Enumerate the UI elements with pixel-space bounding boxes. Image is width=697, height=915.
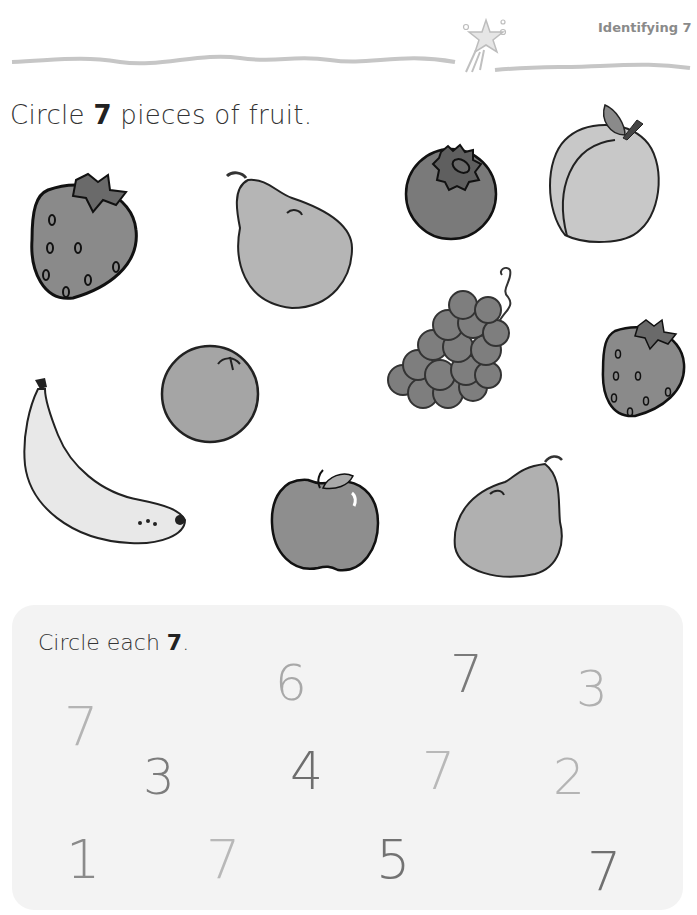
- decorative-wavy-line: [0, 40, 697, 80]
- fruit-instruction: Circle 7 pieces of fruit.: [10, 100, 312, 130]
- numeral-7[interactable]: 7: [587, 845, 621, 899]
- grapes-icon[interactable]: [378, 265, 523, 410]
- apple-icon[interactable]: [268, 468, 383, 576]
- strawberry-icon[interactable]: [28, 170, 143, 300]
- numeral-5[interactable]: 5: [376, 833, 410, 887]
- numeral-7[interactable]: 7: [64, 700, 98, 754]
- numeral-2[interactable]: 2: [553, 752, 585, 802]
- numeral-3[interactable]: 3: [143, 752, 175, 802]
- numeral-7[interactable]: 7: [206, 833, 240, 887]
- numbers-instruction: Circle each 7.: [38, 630, 189, 655]
- shooting-star-icon: [458, 14, 513, 74]
- banana-icon[interactable]: [20, 375, 195, 550]
- blueberry-icon[interactable]: [403, 142, 503, 242]
- peach-icon[interactable]: [545, 100, 665, 250]
- numeral-4[interactable]: 4: [290, 745, 323, 797]
- numeral-6[interactable]: 6: [275, 658, 307, 708]
- strawberry-icon[interactable]: [600, 316, 688, 418]
- page-title: Identifying 7: [598, 20, 692, 35]
- pear-icon[interactable]: [222, 168, 357, 313]
- numeral-7[interactable]: 7: [450, 648, 483, 700]
- numeral-7[interactable]: 7: [422, 745, 455, 797]
- numeral-1[interactable]: 1: [66, 833, 100, 887]
- pear-icon[interactable]: [450, 452, 575, 582]
- numeral-3[interactable]: 3: [576, 664, 608, 714]
